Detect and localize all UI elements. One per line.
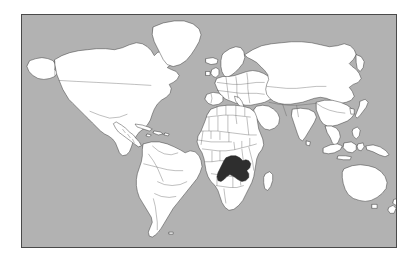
landmass-sri-lanka (306, 141, 310, 146)
landmass-falklands (169, 232, 173, 234)
landmass-tasmania (372, 204, 377, 208)
figure-canvas (0, 0, 418, 263)
landmass-indonesia-java (337, 156, 351, 160)
world-map-svg (22, 15, 396, 247)
landmass-iceland (206, 58, 218, 65)
landmass-ireland (206, 72, 210, 76)
world-map-frame (21, 14, 397, 248)
